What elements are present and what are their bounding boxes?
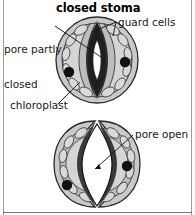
closed-stoma-panel: closed stoma pore partly closed guard ce… — [0, 0, 195, 112]
nucleus-right-open — [122, 161, 132, 171]
stomata-diagram-figure: closed stoma pore partly closed guard ce… — [0, 0, 195, 215]
label-pore-partly-closed-line2: closed — [4, 79, 62, 91]
label-pore-partly-closed-line1: pore partly — [4, 44, 62, 56]
nucleus-left-closed — [64, 67, 74, 77]
closed-stoma-title: closed stoma — [56, 1, 140, 15]
open-stoma-panel: open stoma — [0, 108, 195, 215]
label-guard-cells: guard cells — [118, 17, 175, 29]
nucleus-left-open — [62, 180, 72, 190]
label-pore-open: pore open — [135, 129, 188, 141]
nucleus-right-closed — [120, 57, 130, 67]
open-stoma-illustration — [0, 108, 195, 215]
